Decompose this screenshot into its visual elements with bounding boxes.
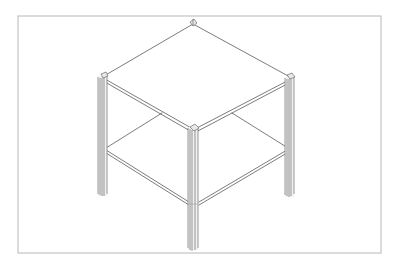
shelf-frame-drawing (0, 0, 394, 265)
drawing-border (18, 16, 381, 253)
front-leg (188, 124, 199, 251)
top-shelf-front-rails (105, 79, 289, 132)
left-leg (98, 72, 108, 196)
top-shelf-back-edges (104, 24, 290, 77)
right-leg (285, 73, 295, 197)
drawing-canvas (0, 0, 394, 265)
